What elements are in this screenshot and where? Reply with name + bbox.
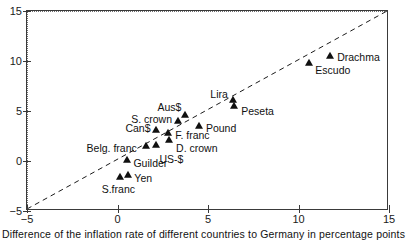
data-point-label: Pound	[206, 123, 236, 134]
data-point-marker	[142, 142, 150, 149]
data-point-label: Belg. franc	[87, 143, 137, 154]
data-point-label: F. franc	[175, 130, 209, 141]
x-tick-mark-inner	[118, 205, 119, 209]
data-point-label: Lira	[210, 89, 228, 100]
data-point-marker	[230, 102, 238, 109]
data-point-marker	[152, 140, 160, 147]
x-tick-label: 0	[114, 214, 120, 225]
data-point-label: Peseta	[241, 106, 274, 117]
x-tick-mark-inner	[299, 205, 300, 209]
scatter-chart-figure: −5051015−5051015 S.francYenGuilderBelg. …	[0, 0, 407, 243]
data-point-marker	[195, 121, 203, 128]
x-tick-label: 10	[292, 214, 304, 225]
data-point-label: Yen	[134, 173, 152, 184]
data-point-label: Drachma	[337, 52, 380, 63]
x-tick-mark-inner	[208, 205, 209, 209]
data-point-marker	[152, 126, 160, 133]
y-tick-label: 5	[16, 106, 22, 117]
data-point-marker	[305, 58, 313, 65]
data-point-label: D. crown	[176, 143, 217, 154]
y-tick-label: 15	[10, 6, 22, 17]
y-tick-mark-inner	[27, 111, 31, 112]
y-tick-mark-inner	[27, 161, 31, 162]
y-tick-label: 10	[10, 56, 22, 67]
data-point-marker	[124, 171, 132, 178]
zero-line-horizontal	[27, 11, 387, 12]
data-point-label: S.franc	[102, 184, 135, 195]
y-tick-label: 0	[16, 156, 22, 167]
x-tick-label: 15	[383, 214, 395, 225]
data-point-label: S. crown	[131, 114, 172, 125]
data-point-marker	[123, 155, 131, 162]
diagonal-reference-line	[27, 11, 387, 209]
y-tick-mark-inner	[27, 11, 31, 12]
chart-caption: Difference of the inflation rate of diff…	[0, 229, 407, 241]
data-point-label: Can$	[125, 123, 150, 134]
x-tick-mark-inner	[389, 205, 390, 209]
data-point-marker	[116, 173, 124, 180]
data-point-marker	[164, 128, 172, 135]
data-point-marker	[229, 95, 237, 102]
data-point-marker	[181, 111, 189, 118]
data-point-marker	[326, 51, 334, 58]
plot-area: −5051015−5051015 S.francYenGuilderBelg. …	[26, 10, 388, 210]
data-point-label: Escudo	[315, 65, 350, 76]
y-tick-mark-inner	[27, 61, 31, 62]
x-tick-mark-inner	[27, 205, 28, 209]
data-point-marker	[165, 135, 173, 142]
zero-line-vertical	[27, 11, 28, 209]
data-point-label: US-$	[159, 154, 183, 165]
data-point-label: Aus$	[157, 102, 181, 113]
x-tick-label: 5	[205, 214, 211, 225]
x-tick-label: −5	[21, 214, 34, 225]
